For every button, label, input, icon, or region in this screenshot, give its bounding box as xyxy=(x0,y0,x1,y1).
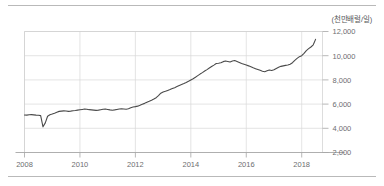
svg-text:2018: 2018 xyxy=(293,160,310,169)
line-chart-svg: 2,0004,0006,0008,00010,00012,000 2008201… xyxy=(0,0,384,186)
plot-area: 2,0004,0006,0008,00010,00012,000 2008201… xyxy=(0,0,384,186)
chart-figure: (천만배럴/일) 2,0004,0006,0008,00010,00012,00… xyxy=(0,0,384,186)
svg-text:12,000: 12,000 xyxy=(333,27,356,36)
x-axis-tick-labels: 200820102012201420162018 xyxy=(16,160,310,169)
horizontal-gridlines xyxy=(25,32,323,129)
svg-text:4,000: 4,000 xyxy=(333,124,352,133)
svg-text:10,000: 10,000 xyxy=(333,52,356,61)
svg-text:6,000: 6,000 xyxy=(333,100,352,109)
data-series-group xyxy=(25,39,316,126)
svg-text:2008: 2008 xyxy=(16,160,33,169)
x-axis-tick-marks xyxy=(25,153,302,158)
y-axis-tick-marks xyxy=(323,32,329,153)
svg-text:2016: 2016 xyxy=(238,160,255,169)
svg-text:8,000: 8,000 xyxy=(333,76,352,85)
svg-text:2012: 2012 xyxy=(127,160,144,169)
svg-text:2010: 2010 xyxy=(72,160,89,169)
plot-frame-border xyxy=(25,32,323,153)
svg-text:2,000: 2,000 xyxy=(333,148,352,157)
svg-text:2014: 2014 xyxy=(182,160,199,169)
y-axis-tick-labels: 2,0004,0006,0008,00010,00012,000 xyxy=(333,27,356,157)
